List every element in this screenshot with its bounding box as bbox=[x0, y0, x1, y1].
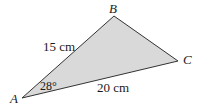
vertex-label-c: C bbox=[183, 52, 192, 67]
triangle-diagram: A B C 15 cm 20 cm 28° bbox=[0, 0, 201, 106]
angle-label-a: 28° bbox=[40, 79, 57, 93]
vertex-label-a: A bbox=[9, 91, 18, 106]
vertex-label-b: B bbox=[109, 1, 117, 16]
side-label-ab: 15 cm bbox=[43, 39, 75, 54]
side-label-ac: 20 cm bbox=[97, 80, 129, 95]
